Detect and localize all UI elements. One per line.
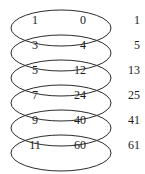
ellipse-chain-svg [0,0,145,174]
ellipse-6 [11,135,111,171]
ellipse-chain-diagram: 1 0 1 3 4 5 5 12 13 7 24 25 9 40 41 11 6… [0,0,145,174]
